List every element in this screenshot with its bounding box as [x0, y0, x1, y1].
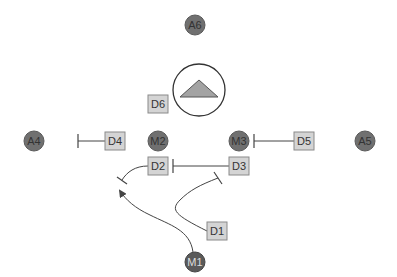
edge-d2-inhibits [117, 166, 148, 184]
svg-text:D1: D1 [210, 225, 224, 237]
svg-text:A4: A4 [27, 135, 40, 147]
box-d1[interactable]: D1 [207, 222, 227, 240]
edge-d4-inhibits [78, 134, 105, 148]
circle-a6[interactable]: A6 [185, 15, 205, 35]
box-d2[interactable]: D2 [148, 157, 168, 175]
diagram-canvas: A6 A4 M2 M3 A5 M1 D6 D4 D5 D2 D3 [0, 0, 397, 277]
box-d4[interactable]: D4 [105, 132, 125, 150]
svg-text:M2: M2 [150, 135, 165, 147]
svg-text:D4: D4 [108, 135, 122, 147]
circle-m2[interactable]: M2 [148, 131, 168, 151]
svg-text:D2: D2 [151, 160, 165, 172]
svg-text:D6: D6 [151, 98, 165, 110]
triangle-node[interactable] [173, 64, 225, 116]
box-d6[interactable]: D6 [148, 95, 168, 113]
circle-m1[interactable]: M1 [185, 252, 205, 272]
svg-text:D3: D3 [232, 160, 246, 172]
edge-m1-activates [120, 191, 193, 252]
circle-a5[interactable]: A5 [355, 131, 375, 151]
edge-d5-inhibits-m3 [254, 134, 294, 148]
svg-text:M3: M3 [231, 135, 246, 147]
edge-d3-inhibits-d2 [173, 159, 229, 173]
box-d3[interactable]: D3 [229, 157, 249, 175]
circle-a4[interactable]: A4 [24, 131, 44, 151]
svg-text:A6: A6 [188, 19, 201, 31]
box-d5[interactable]: D5 [294, 132, 314, 150]
svg-text:D5: D5 [297, 135, 311, 147]
svg-text:M1: M1 [187, 256, 202, 268]
circle-m3[interactable]: M3 [229, 131, 249, 151]
svg-text:A5: A5 [358, 135, 371, 147]
